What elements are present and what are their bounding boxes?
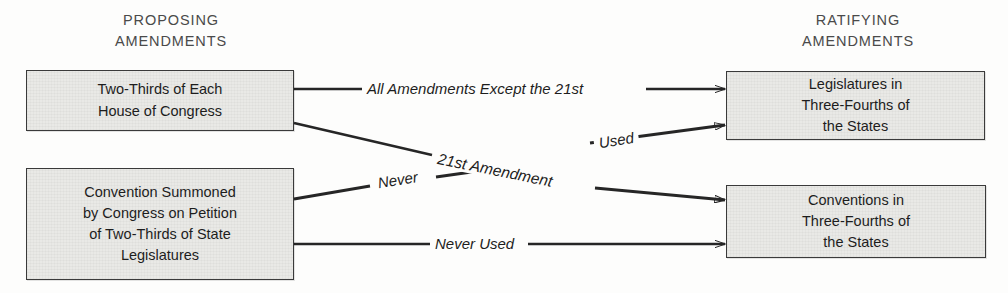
node-two-thirds-of-each-house-of-congress: Two-Thirds of Each House of Congress — [26, 70, 294, 131]
node-legislatures-in-three-fourths-of-the-states: Legislatures in Three-Fourths of the Sta… — [726, 71, 985, 140]
edge-convention-to-legislatures — [294, 125, 725, 199]
node-conventions-in-three-fourths-of-the-states: Conventions in Three-Fourths of the Stat… — [726, 185, 986, 258]
node-label: Two-Thirds of Each House of Congress — [98, 79, 223, 121]
node-label: Conventions in Three-Fourths of the Stat… — [802, 190, 910, 253]
edge-label-all-amendments-except-21st: All Amendments Except the 21st — [362, 81, 588, 96]
node-label: Convention Summoned by Congress on Petit… — [83, 182, 237, 267]
edge-label-never-used: Never Used — [430, 236, 519, 251]
node-convention-summoned-by-congress: Convention Summoned by Congress on Petit… — [26, 168, 294, 280]
amendment-process-diagram: PROPOSING AMENDMENTS RATIFYING AMENDMENT… — [0, 0, 1008, 293]
node-label: Legislatures in Three-Fourths of the Sta… — [802, 74, 910, 137]
